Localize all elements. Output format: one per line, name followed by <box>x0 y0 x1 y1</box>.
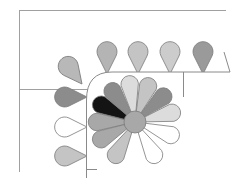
fan-hub <box>124 111 146 133</box>
corner-petal <box>54 52 90 90</box>
top-petal-1 <box>97 42 117 74</box>
top-petal-4 <box>193 42 213 74</box>
left-petal-2 <box>55 117 87 137</box>
quilt-corner-diagram <box>0 0 242 188</box>
top-petal-2 <box>128 42 148 74</box>
left-petal-1 <box>55 87 87 107</box>
left-petal-column <box>55 87 87 166</box>
left-petal-3 <box>55 146 87 166</box>
top-right-slant <box>224 52 230 72</box>
top-petal-3 <box>160 42 180 74</box>
